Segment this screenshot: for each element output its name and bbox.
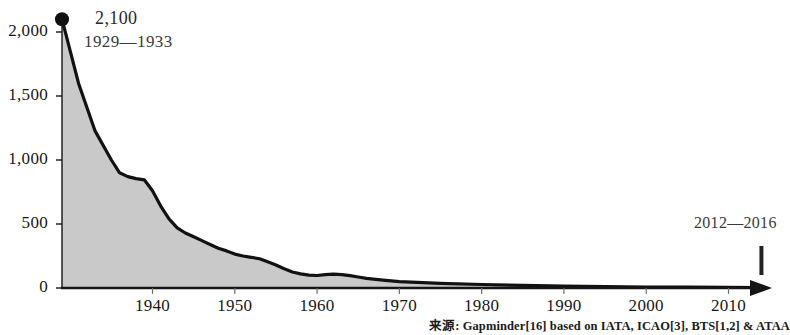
y-axis-ticks xyxy=(56,32,62,288)
x-axis-tick-label: 1950 xyxy=(195,296,275,316)
x-axis-tick-label: 2000 xyxy=(606,296,686,316)
x-axis-tick-label: 1970 xyxy=(359,296,439,316)
x-axis-tick-label: 1940 xyxy=(113,296,193,316)
y-axis-tick-label: 500 xyxy=(0,213,48,233)
peak-period-label: 1929—1933 xyxy=(84,32,173,52)
end-period-label: 2012—2016 xyxy=(694,214,777,232)
y-axis-tick-label: 1,500 xyxy=(0,85,48,105)
y-axis-tick-label: 0 xyxy=(0,277,48,297)
peak-value-label: 2,100 xyxy=(95,8,138,29)
source-caption: 来源: Gapminder[16] based on IATA, ICAO[3]… xyxy=(429,315,790,334)
x-axis-tick-label: 1990 xyxy=(524,296,604,316)
x-axis-tick-label: 2010 xyxy=(689,296,769,316)
x-axis-arrowhead xyxy=(750,280,772,296)
area-fill xyxy=(62,19,761,288)
y-axis-tick-label: 1,000 xyxy=(0,149,48,169)
y-axis-tick-label: 2,000 xyxy=(0,21,48,41)
x-axis-tick-label: 1980 xyxy=(442,296,522,316)
x-axis-tick-label: 1960 xyxy=(277,296,357,316)
